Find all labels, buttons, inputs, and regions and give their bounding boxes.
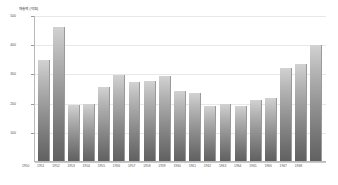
bar xyxy=(98,87,110,161)
gridline-0 xyxy=(35,162,326,163)
bar xyxy=(204,106,216,161)
bar-slot xyxy=(66,16,81,161)
bar xyxy=(113,75,125,161)
x-axis-label: 1953 xyxy=(63,164,78,168)
bar-series xyxy=(36,16,324,161)
y-tick-label-500: 500 xyxy=(10,14,16,18)
x-axis-label: 1968 xyxy=(291,164,306,168)
bar-chart: 매출액 (억원) 500400300200100 195019511952195… xyxy=(0,0,338,185)
x-axis-labels: 1950195119521953195419551956195719581959… xyxy=(18,164,306,168)
x-axis-label: 1951 xyxy=(33,164,48,168)
x-axis-label: 1965 xyxy=(245,164,260,168)
y-tick-mark-300 xyxy=(31,74,34,75)
y-axis-line xyxy=(34,16,35,162)
y-tick-group-200: 200 xyxy=(18,104,34,105)
x-axis-label: 1967 xyxy=(276,164,291,168)
y-tick-label-400: 400 xyxy=(10,43,16,47)
bar-slot xyxy=(263,16,278,161)
y-axis-title: 매출액 (억원) xyxy=(19,7,38,12)
bar-slot xyxy=(172,16,187,161)
bar-slot xyxy=(233,16,248,161)
y-tick-label-200: 200 xyxy=(10,102,16,106)
x-axis-label: 1959 xyxy=(154,164,169,168)
bar xyxy=(280,68,292,161)
bar-slot xyxy=(142,16,157,161)
y-tick-mark-200 xyxy=(31,104,34,105)
x-axis-label: 1950 xyxy=(18,164,33,168)
bar-slot xyxy=(279,16,294,161)
bar xyxy=(295,64,307,161)
bar-slot xyxy=(218,16,233,161)
y-tick-mark-100 xyxy=(31,133,34,134)
bar-slot xyxy=(248,16,263,161)
y-tick-group-400: 400 xyxy=(18,45,34,46)
x-axis-label: 1963 xyxy=(215,164,230,168)
bar xyxy=(250,100,262,161)
bar xyxy=(189,93,201,161)
bar xyxy=(129,82,141,161)
bar xyxy=(83,104,95,161)
x-axis-label: 1966 xyxy=(261,164,276,168)
x-axis-label: 1964 xyxy=(230,164,245,168)
bar xyxy=(265,98,277,161)
bar-slot xyxy=(36,16,51,161)
bar xyxy=(68,105,80,161)
bar-slot xyxy=(127,16,142,161)
bar-slot xyxy=(294,16,309,161)
y-tick-group-100: 100 xyxy=(18,133,34,134)
bar xyxy=(159,76,171,161)
y-tick-group-500: 500 xyxy=(18,16,34,17)
x-axis-label: 1961 xyxy=(185,164,200,168)
bar xyxy=(38,60,50,162)
y-tick-mark-500 xyxy=(31,16,34,17)
bar xyxy=(53,27,65,161)
x-axis-label: 1960 xyxy=(170,164,185,168)
bar-slot xyxy=(97,16,112,161)
x-axis-label: 1958 xyxy=(139,164,154,168)
bar-slot xyxy=(188,16,203,161)
bar xyxy=(235,106,247,161)
x-axis-label: 1954 xyxy=(79,164,94,168)
y-tick-mark-400 xyxy=(31,45,34,46)
x-axis-label: 1955 xyxy=(94,164,109,168)
x-axis-label: 1952 xyxy=(48,164,63,168)
bar xyxy=(220,104,232,161)
bar-slot xyxy=(51,16,66,161)
bar xyxy=(144,81,156,161)
bar-slot xyxy=(309,16,324,161)
x-axis-label: 1962 xyxy=(200,164,215,168)
bar xyxy=(310,45,322,161)
x-axis-label: 1957 xyxy=(124,164,139,168)
y-tick-label-300: 300 xyxy=(10,72,16,76)
x-axis-label: 1956 xyxy=(109,164,124,168)
bar-slot xyxy=(203,16,218,161)
bar xyxy=(174,91,186,161)
bar-slot xyxy=(81,16,96,161)
y-tick-label-100: 100 xyxy=(10,131,16,135)
plot-area: 500400300200100 xyxy=(18,16,326,162)
bar-slot xyxy=(157,16,172,161)
y-tick-group-300: 300 xyxy=(18,74,34,75)
bar-slot xyxy=(112,16,127,161)
